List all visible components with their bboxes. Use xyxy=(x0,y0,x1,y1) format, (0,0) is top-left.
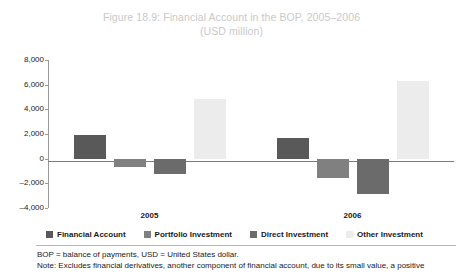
y-axis-tick-mark xyxy=(45,183,48,184)
note-abbreviations: BOP = balance of payments, USD = United … xyxy=(37,249,457,260)
y-axis-tick-label: 0 xyxy=(40,155,44,163)
x-axis-label-2006: 2006 xyxy=(344,211,362,220)
legend-swatch-icon xyxy=(250,231,257,238)
note-text: Note: Excludes financial derivatives, an… xyxy=(37,260,457,271)
legend-swatch-icon xyxy=(346,231,353,238)
bar-2006-financial-account xyxy=(277,138,309,159)
legend-item-direct-investment[interactable]: Direct Investment xyxy=(250,230,328,239)
legend-swatch-icon xyxy=(46,231,53,238)
bar-2006-direct-investment xyxy=(357,159,389,195)
figure-notes: BOP = balance of payments, USD = United … xyxy=(37,249,457,271)
y-axis-tick-label: 8,000 xyxy=(24,56,44,64)
y-axis-tick-label: –2,000 xyxy=(20,179,44,187)
notes-divider xyxy=(36,245,456,246)
bar-2006-other-investment xyxy=(397,81,429,159)
zero-baseline xyxy=(48,161,454,162)
figure-container: Figure 18.9: Financial Account in the BO… xyxy=(0,0,463,279)
legend-item-portfolio-investment[interactable]: Portfolio Investment xyxy=(144,230,232,239)
figure-title-line-1: Figure 18.9: Financial Account in the BO… xyxy=(0,10,463,24)
y-axis-tick-mark xyxy=(45,60,48,61)
y-axis-tick-label: 2,000 xyxy=(24,130,44,138)
y-axis-tick-mark xyxy=(45,85,48,86)
chart-legend: Financial AccountPortfolio InvestmentDir… xyxy=(46,228,458,240)
y-axis-line xyxy=(48,60,49,208)
y-axis-tick-label: 4,000 xyxy=(24,105,44,113)
y-axis-tick-mark xyxy=(45,134,48,135)
figure-title: Figure 18.9: Financial Account in the BO… xyxy=(0,10,463,38)
legend-swatch-icon xyxy=(144,231,151,238)
legend-label: Direct Investment xyxy=(261,230,328,239)
y-axis-tick-mark xyxy=(45,208,48,209)
x-axis-label-2005: 2005 xyxy=(141,211,159,220)
figure-title-line-2: (USD million) xyxy=(0,24,463,38)
bar-2005-financial-account xyxy=(74,135,106,158)
legend-item-financial-account[interactable]: Financial Account xyxy=(46,230,126,239)
bar-2005-other-investment xyxy=(194,99,226,158)
bar-2005-portfolio-investment xyxy=(114,159,146,168)
bar-2005-direct-investment xyxy=(154,159,186,174)
legend-label: Portfolio Investment xyxy=(155,230,232,239)
y-axis-tick-mark xyxy=(45,109,48,110)
y-axis-tick-mark xyxy=(45,159,48,160)
legend-item-other-investment[interactable]: Other Investment xyxy=(346,230,423,239)
plot-area: 8,0006,0004,0002,0000–2,000–4,000 xyxy=(48,60,454,208)
legend-label: Financial Account xyxy=(57,230,126,239)
legend-label: Other Investment xyxy=(357,230,423,239)
y-axis-tick-label: –4,000 xyxy=(20,204,44,212)
y-axis-tick-label: 6,000 xyxy=(24,81,44,89)
bar-2006-portfolio-investment xyxy=(317,159,349,179)
